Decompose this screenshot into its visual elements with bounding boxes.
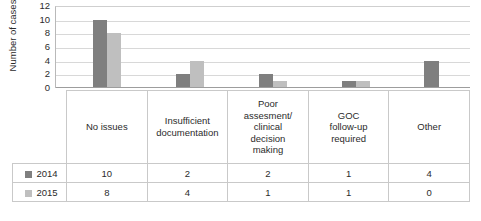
legend-label-2014: 2014 bbox=[36, 168, 57, 179]
value-2015-1: 8 bbox=[67, 183, 148, 202]
data-table-header-row: No issuesInsufficientdocumentationPooras… bbox=[13, 91, 470, 164]
value-2015-2: 4 bbox=[147, 183, 228, 202]
data-table-row: 2014102214 bbox=[13, 164, 470, 183]
y-tick-8: 8 bbox=[26, 29, 50, 39]
legend-key-2015: 2015 bbox=[13, 183, 67, 202]
legend-key-2014: 2014 bbox=[13, 164, 67, 183]
value-2014-1: 10 bbox=[67, 164, 148, 183]
value-2014-2: 2 bbox=[147, 164, 228, 183]
bar-2014-3 bbox=[259, 74, 273, 88]
legend-swatch-2015-icon bbox=[25, 190, 32, 197]
x-axis-baseline bbox=[56, 87, 470, 88]
plot-region: Number of cases 121086420 bbox=[0, 6, 481, 90]
y-tick-12: 12 bbox=[26, 1, 50, 11]
data-table-corner-cell bbox=[13, 91, 67, 164]
value-2014-3: 2 bbox=[228, 164, 309, 183]
data-table-row: 201584110 bbox=[13, 183, 470, 202]
legend-swatch-2014-icon bbox=[25, 171, 32, 178]
y-tick-4: 4 bbox=[26, 56, 50, 66]
y-axis-title: Number of cases bbox=[7, 0, 18, 78]
category-label-5: Other bbox=[389, 91, 470, 164]
bar-2014-2 bbox=[176, 74, 190, 88]
value-2015-4: 1 bbox=[308, 183, 389, 202]
value-2015-3: 1 bbox=[228, 183, 309, 202]
plot-area bbox=[55, 6, 470, 88]
bar-group-3 bbox=[222, 7, 305, 88]
bar-group-5 bbox=[387, 7, 470, 88]
category-label-1: No issues bbox=[67, 91, 148, 164]
category-label-3: Poorassesment/clinicaldecisionmaking bbox=[228, 91, 309, 164]
category-label-4: GOCfollow-uprequired bbox=[308, 91, 389, 164]
bar-2014-5 bbox=[424, 61, 438, 88]
data-table: No issuesInsufficientdocumentationPooras… bbox=[12, 90, 470, 202]
bar-group-2 bbox=[139, 7, 222, 88]
bar-2015-1 bbox=[107, 33, 121, 88]
value-2014-4: 1 bbox=[308, 164, 389, 183]
legend-label-2015: 2015 bbox=[36, 187, 57, 198]
value-2015-5: 0 bbox=[389, 183, 470, 202]
y-tick-10: 10 bbox=[26, 15, 50, 25]
y-tick-2: 2 bbox=[26, 70, 50, 80]
value-2014-5: 4 bbox=[389, 164, 470, 183]
y-axis-tick-labels: 121086420 bbox=[26, 6, 50, 88]
bar-2014-1 bbox=[93, 20, 107, 88]
y-tick-6: 6 bbox=[26, 42, 50, 52]
bar-2015-2 bbox=[190, 61, 204, 88]
bar-group-1 bbox=[56, 7, 139, 88]
bar-group-4 bbox=[304, 7, 387, 88]
bar-groups bbox=[56, 7, 470, 88]
data-table-body: No issuesInsufficientdocumentationPooras… bbox=[13, 91, 470, 202]
category-label-2: Insufficientdocumentation bbox=[147, 91, 228, 164]
bar-chart-figure: Number of cases 121086420 No issuesInsuf… bbox=[0, 0, 481, 221]
